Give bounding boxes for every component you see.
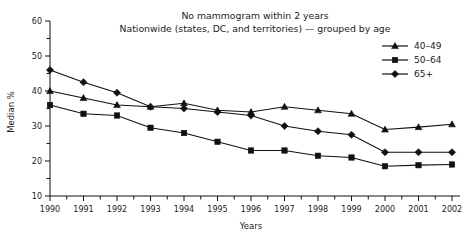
data-point-1-6	[248, 148, 253, 153]
data-point-1-5	[215, 139, 220, 144]
data-point-2-0	[46, 66, 53, 73]
x-tick-label: 1999	[341, 205, 361, 214]
y-tick-label: 60	[32, 17, 42, 26]
data-point-2-12	[448, 149, 455, 156]
legend-label-2: 65+	[414, 69, 433, 79]
x-tick-label: 1992	[107, 205, 127, 214]
data-point-1-10	[382, 164, 387, 169]
data-point-legend-2	[391, 70, 398, 77]
data-point-1-12	[449, 162, 454, 167]
x-tick-label: 2000	[375, 205, 395, 214]
data-point-1-3	[148, 125, 153, 130]
x-tick-label: 2001	[408, 205, 428, 214]
y-tick-label: 50	[32, 52, 42, 61]
y-axis-title: Median %	[6, 91, 16, 133]
chart-container: No mammogram within 2 yearsNationwide (s…	[0, 0, 473, 251]
data-point-1-0	[47, 102, 52, 107]
data-point-1-4	[181, 130, 186, 135]
legend-label-1: 50–64	[414, 55, 442, 65]
x-tick-label: 1998	[308, 205, 328, 214]
legend-label-0: 40–49	[414, 41, 442, 51]
y-tick-label: 40	[32, 87, 42, 96]
data-point-2-10	[381, 149, 388, 156]
x-axis-title: Years	[239, 221, 263, 231]
data-point-0-7	[281, 103, 288, 109]
data-point-2-11	[415, 149, 422, 156]
chart-title: No mammogram within 2 years	[181, 10, 328, 21]
data-point-2-9	[348, 131, 355, 138]
data-point-1-11	[416, 163, 421, 168]
data-point-2-7	[281, 122, 288, 129]
data-point-1-2	[114, 113, 119, 118]
data-point-1-1	[81, 111, 86, 116]
x-tick-label: 1997	[274, 205, 294, 214]
data-point-1-9	[349, 155, 354, 160]
x-tick-label: 1994	[174, 205, 194, 214]
data-point-2-8	[314, 128, 321, 135]
x-tick-label: 2002	[442, 205, 462, 214]
x-tick-label: 1996	[241, 205, 261, 214]
x-tick-label: 1995	[207, 205, 227, 214]
chart-subtitle: Nationwide (states, DC, and territories)…	[120, 23, 391, 34]
x-tick-label: 1990	[40, 205, 60, 214]
x-tick-label: 1993	[140, 205, 160, 214]
data-point-1-8	[315, 153, 320, 158]
line-chart: No mammogram within 2 yearsNationwide (s…	[0, 0, 473, 251]
data-point-legend-1	[392, 57, 397, 62]
x-tick-label: 1991	[73, 205, 93, 214]
data-point-2-2	[113, 89, 120, 96]
y-tick-label: 20	[32, 157, 42, 166]
data-point-2-1	[80, 79, 87, 86]
y-tick-label: 10	[32, 192, 42, 201]
data-point-1-7	[282, 148, 287, 153]
y-tick-label: 30	[32, 122, 42, 131]
